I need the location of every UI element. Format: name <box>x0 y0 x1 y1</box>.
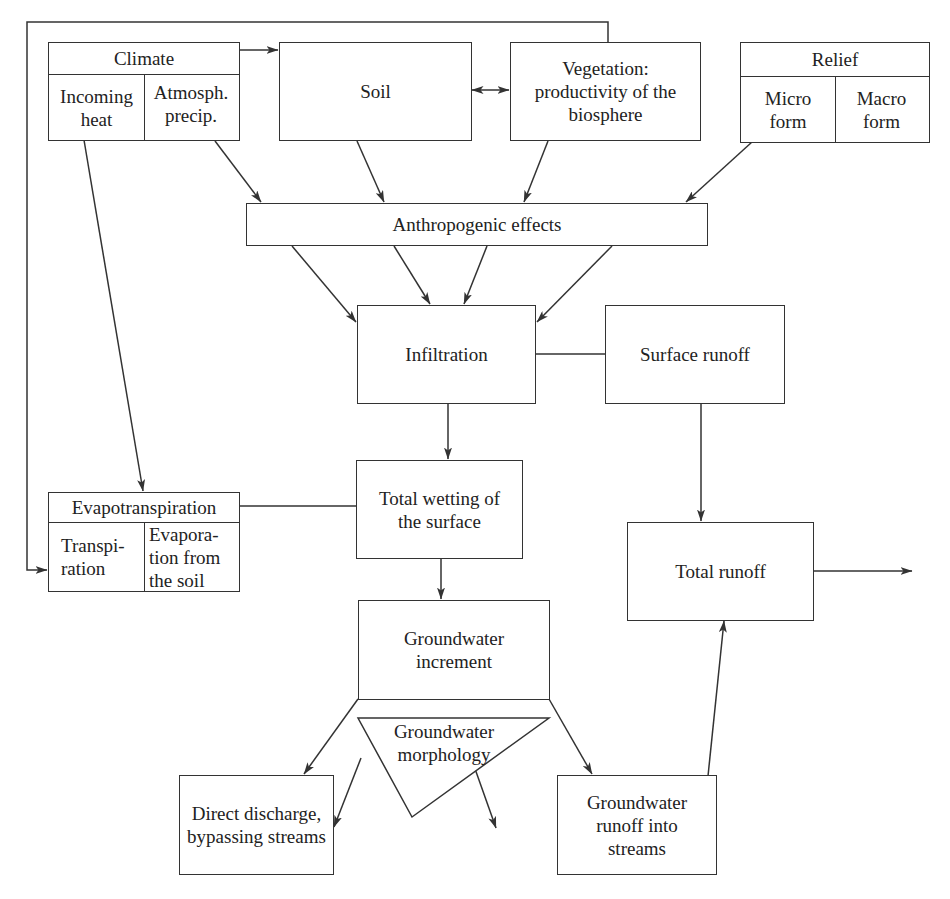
anthropogenic-to-infiltration-arrow-3 <box>464 246 487 304</box>
precip-to-anthropogenic-arrow <box>215 141 261 202</box>
vegetation-to-anthropogenic-arrow <box>524 141 548 202</box>
climate-box: Climate Incoming heat Atmosph. precip. <box>48 42 240 141</box>
anthropogenic-to-infiltration-arrow-4 <box>537 246 612 322</box>
direct-discharge-box: Direct discharge, bypassing streams <box>179 775 334 875</box>
anthropogenic-to-infiltration-arrow-2 <box>394 246 430 304</box>
heat-to-evapotranspiration-arrow <box>84 140 143 491</box>
groundwater-increment-box: Groundwater increment <box>358 600 550 700</box>
increment-to-direct-discharge-arrow <box>304 699 358 774</box>
macro-form-cell: Macro form <box>834 77 929 142</box>
evapotranspiration-box: Evapotranspiration Transpi- ration Evapo… <box>48 492 240 592</box>
total-runoff-box: Total runoff <box>627 522 814 621</box>
incoming-heat-cell: Incoming heat <box>49 75 145 140</box>
groundwater-runoff-box: Groundwater runoff into streams <box>557 775 717 875</box>
anthropogenic-to-infiltration-arrow-1 <box>292 246 356 322</box>
soil-box: Soil <box>279 42 472 141</box>
relief-title: Relief <box>741 43 929 77</box>
evapotranspiration-title: Evapotranspiration <box>49 493 239 523</box>
soil-to-anthropogenic-arrow <box>357 141 384 202</box>
atmospheric-precipitation-cell: Atmosph. precip. <box>143 75 239 140</box>
infiltration-box: Infiltration <box>357 305 536 404</box>
groundwater-runoff-to-total-runoff-arrow <box>708 621 724 776</box>
increment-to-groundwater-runoff-arrow <box>549 699 592 774</box>
total-wetting-box: Total wetting of the surface <box>356 460 523 559</box>
climate-title: Climate <box>49 43 239 75</box>
evaporation-from-soil-cell: Evapora- tion from the soil <box>143 523 239 591</box>
relief-box: Relief Micro form Macro form <box>740 42 930 143</box>
vegetation-box: Vegetation: productivity of the biospher… <box>510 42 701 141</box>
morphology-to-direct-discharge-arrow <box>334 758 361 827</box>
groundwater-morphology-label: Groundwater morphology <box>380 720 508 766</box>
anthropogenic-effects-box: Anthropogenic effects <box>246 203 708 246</box>
relief-to-anthropogenic-arrow <box>686 142 752 202</box>
micro-form-cell: Micro form <box>741 77 836 142</box>
surface-runoff-box: Surface runoff <box>605 305 785 404</box>
transpiration-cell: Transpi- ration <box>49 523 145 591</box>
